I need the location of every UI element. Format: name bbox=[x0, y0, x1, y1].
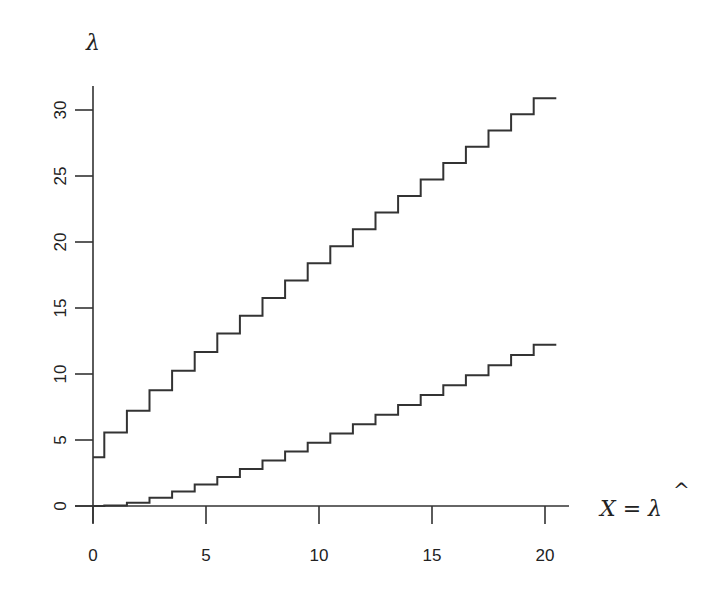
y-tick-label: 15 bbox=[51, 299, 70, 318]
y-tick-label: 10 bbox=[51, 365, 70, 384]
step-chart: 05101520253005101520 λ X = λ ^ bbox=[0, 0, 721, 603]
x-tick-label: 10 bbox=[310, 546, 329, 565]
x-axis-title-hat: ^ bbox=[673, 478, 690, 502]
y-tick-label: 30 bbox=[51, 101, 70, 120]
y-tick-label: 20 bbox=[51, 233, 70, 252]
series-upper-line bbox=[93, 98, 556, 457]
x-axis-title: X = λ bbox=[598, 496, 662, 521]
y-tick-label: 0 bbox=[51, 501, 70, 510]
x-tick-label: 0 bbox=[88, 546, 97, 565]
x-tick-label: 20 bbox=[536, 546, 555, 565]
y-tick-label: 5 bbox=[51, 435, 70, 444]
axes: 05101520253005101520 bbox=[51, 86, 569, 565]
y-axis-title: λ bbox=[85, 30, 100, 55]
x-tick-label: 15 bbox=[423, 546, 442, 565]
series-lower-line bbox=[93, 345, 556, 506]
y-tick-label: 25 bbox=[51, 167, 70, 186]
x-tick-label: 5 bbox=[201, 546, 210, 565]
series-group bbox=[93, 98, 556, 506]
